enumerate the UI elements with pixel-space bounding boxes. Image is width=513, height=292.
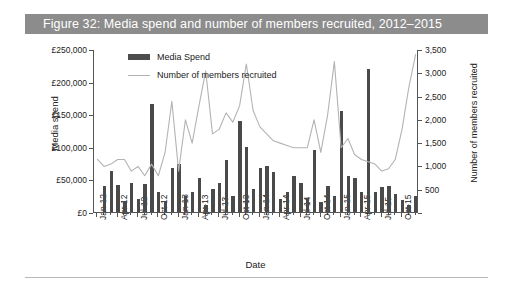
x-tick-mark xyxy=(117,213,118,217)
x-tick-mark xyxy=(300,213,301,217)
y-right-tick-label: 2,000 xyxy=(425,116,446,125)
chart-container: Media spend Number of members recruited … xyxy=(0,40,513,255)
legend-item-members-recruited: Number of members recruited xyxy=(128,70,277,80)
y-left-tick-label: £250,000 xyxy=(52,46,87,55)
y-left-tick-label: £200,000 xyxy=(52,79,87,88)
y-right-tick-mark xyxy=(418,213,422,214)
y-left-tick-mark xyxy=(89,213,93,214)
x-tick-mark xyxy=(394,213,395,215)
y-right-tick-label: 3,000 xyxy=(425,69,446,78)
x-tick-mark xyxy=(320,213,321,217)
x-tick-mark xyxy=(272,213,273,215)
x-tick-mark xyxy=(178,213,179,217)
legend-label-members-recruited: Number of members recruited xyxy=(157,70,277,80)
y-right-tick-mark xyxy=(418,97,422,98)
x-tick-mark xyxy=(293,213,294,215)
x-tick-mark xyxy=(354,213,355,215)
x-tick-mark xyxy=(252,213,253,215)
y-right-tick-mark xyxy=(418,120,422,121)
legend-bar-swatch-icon xyxy=(128,54,150,60)
x-axis-title: Date xyxy=(93,259,418,270)
y-left-tick-label: £50,000 xyxy=(56,176,87,185)
figure-page: Figure 32: Media spend and number of mem… xyxy=(0,0,513,292)
x-tick-mark xyxy=(401,213,402,217)
y-right-tick-label: 3,500 xyxy=(425,46,446,55)
x-tick-mark xyxy=(239,213,240,217)
chart-legend: Media Spend Number of members recruited xyxy=(128,52,277,88)
x-tick-mark xyxy=(340,213,341,217)
x-tick-mark xyxy=(313,213,314,215)
x-tick-mark xyxy=(110,213,111,215)
legend-label-media-spend: Media Spend xyxy=(157,52,210,62)
y-right-tick-label: 1,500 xyxy=(425,139,446,148)
x-tick-mark xyxy=(151,213,152,215)
figure-title-banner: Figure 32: Media spend and number of mem… xyxy=(25,14,488,34)
legend-item-media-spend: Media Spend xyxy=(128,52,277,62)
y-right-tick-mark xyxy=(418,50,422,51)
x-tick-mark xyxy=(374,213,375,215)
y-left-tick-label: £100,000 xyxy=(52,144,87,153)
y-axis-right-title: Number of members recruited xyxy=(469,48,479,198)
x-tick-mark xyxy=(381,213,382,217)
x-tick-mark xyxy=(137,213,138,217)
y-right-tick-label: 500 xyxy=(425,186,439,195)
x-tick-mark xyxy=(259,213,260,217)
y-right-tick-mark xyxy=(418,143,422,144)
x-tick-mark xyxy=(232,213,233,215)
x-tick-mark xyxy=(130,213,131,215)
x-tick-mark xyxy=(171,213,172,215)
y-right-tick-mark xyxy=(418,73,422,74)
y-left-tick-label: £150,000 xyxy=(52,111,87,120)
footer-divider xyxy=(25,277,488,278)
x-tick-mark xyxy=(415,213,416,215)
y-right-tick-label: 2,500 xyxy=(425,93,446,102)
y-left-tick-label: £0 xyxy=(78,209,87,218)
figure-title: Figure 32: Media spend and number of mem… xyxy=(25,17,442,31)
x-tick-mark xyxy=(191,213,192,215)
y-right-tick-label: 1,000 xyxy=(425,162,446,171)
x-tick-mark xyxy=(211,213,212,215)
x-tick-mark xyxy=(198,213,199,217)
x-tick-mark xyxy=(333,213,334,215)
legend-line-swatch-icon xyxy=(128,75,150,76)
y-right-tick-mark xyxy=(418,190,422,191)
y-right-tick-mark xyxy=(418,166,422,167)
